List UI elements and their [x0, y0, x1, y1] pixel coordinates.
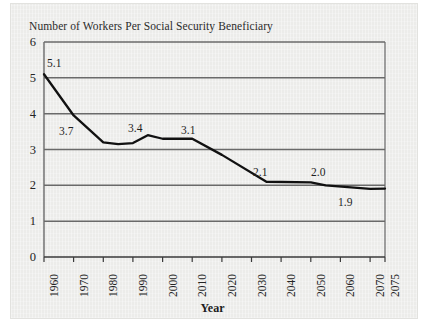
- plot-area: [0, 0, 425, 332]
- gridlines: [44, 42, 385, 221]
- xtick-label-2010: 2010: [196, 274, 208, 297]
- ytick-label-3: 3: [20, 143, 36, 158]
- xtick-label-2050: 2050: [315, 274, 327, 297]
- x-axis-title: Year: [0, 301, 425, 316]
- point-label-3-4: 3.4: [128, 122, 142, 134]
- ytick-label-0: 0: [20, 250, 36, 265]
- ytick-label-4: 4: [20, 107, 36, 122]
- data-series-line: [44, 74, 385, 189]
- point-label-2-1: 2.1: [253, 166, 267, 178]
- point-label-5-1: 5.1: [47, 57, 61, 69]
- xtick-label-2030: 2030: [256, 274, 268, 297]
- xtick-label-2020: 2020: [226, 274, 238, 297]
- xtick-label-1960: 1960: [48, 274, 60, 297]
- xtick-label-1990: 1990: [137, 274, 149, 297]
- xtick-label-2060: 2060: [344, 274, 356, 297]
- point-label-3-7: 3.7: [59, 125, 73, 137]
- xtick-label-1970: 1970: [78, 274, 90, 297]
- ytick-label-1: 1: [20, 214, 36, 229]
- figure-root: Number of Workers Per Social Security Be…: [0, 0, 425, 332]
- point-label-3-1: 3.1: [181, 124, 195, 136]
- point-label-1-9: 1.9: [338, 196, 352, 208]
- x-axis-ticks: [44, 257, 385, 262]
- xtick-label-1980: 1980: [107, 274, 119, 297]
- xtick-label-2070: 2070: [374, 274, 386, 297]
- ytick-label-2: 2: [20, 178, 36, 193]
- xtick-label-2000: 2000: [167, 274, 179, 297]
- xtick-label-2040: 2040: [285, 274, 297, 297]
- point-label-2-0: 2.0: [311, 166, 325, 178]
- xtick-label-2075: 2075: [389, 274, 401, 297]
- ytick-label-5: 5: [20, 71, 36, 86]
- ytick-label-6: 6: [20, 35, 36, 50]
